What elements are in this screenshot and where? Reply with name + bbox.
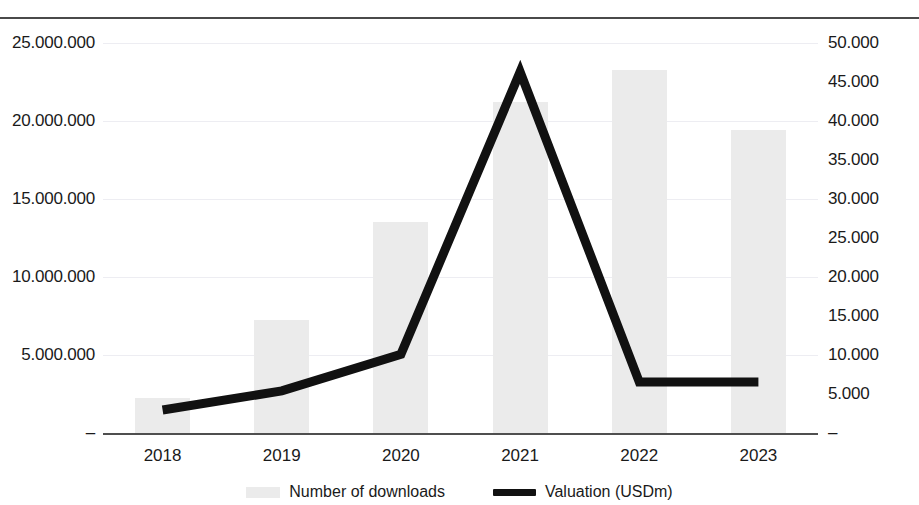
right-y-tick-label: 15.000	[828, 306, 879, 326]
valuation-polyline	[163, 72, 759, 410]
right-y-tick-label: 5.000	[828, 384, 870, 404]
top-divider	[0, 17, 919, 19]
right-y-tick-label: 40.000	[828, 111, 879, 131]
left-y-tick-label: 20.000.000	[12, 111, 95, 131]
x-tick-label-2021: 2021	[460, 446, 580, 466]
line-swatch-icon	[493, 489, 536, 496]
left-y-tick-label: 25.000.000	[12, 33, 95, 53]
left-y-tick-label: 15.000.000	[12, 189, 95, 209]
left-y-tick-label: –	[86, 423, 95, 443]
left-y-tick-label: 5.000.000	[21, 345, 95, 365]
right-y-tick-label: 50.000	[828, 33, 879, 53]
bar-swatch-icon	[246, 487, 280, 498]
right-y-tick-label: 20.000	[828, 267, 879, 287]
left-y-axis: –5.000.00010.000.00015.000.00020.000.000…	[0, 0, 95, 505]
x-tick-label-2019: 2019	[222, 446, 342, 466]
right-y-tick-label: 35.000	[828, 150, 879, 170]
right-y-tick-label: 10.000	[828, 345, 879, 365]
legend-item-valuation[interactable]: Valuation (USDm)	[493, 483, 673, 501]
x-tick-label-2023: 2023	[698, 446, 818, 466]
right-y-tick-label: 30.000	[828, 189, 879, 209]
line-series-valuation	[103, 43, 818, 433]
x-tick-label-2018: 2018	[103, 446, 223, 466]
right-y-tick-label: –	[828, 423, 837, 443]
plot-area	[103, 43, 818, 433]
chart-figure: –5.000.00010.000.00015.000.00020.000.000…	[0, 0, 919, 505]
x-axis-baseline	[103, 433, 818, 435]
left-y-tick-label: 10.000.000	[12, 267, 95, 287]
right-y-tick-label: 25.000	[828, 228, 879, 248]
legend-label-valuation: Valuation (USDm)	[545, 483, 673, 501]
right-y-axis: –5.00010.00015.00020.00025.00030.00035.0…	[828, 0, 919, 505]
x-tick-label-2020: 2020	[341, 446, 461, 466]
legend-item-number-of-downloads[interactable]: Number of downloads	[246, 483, 445, 501]
chart-legend: Number of downloads Valuation (USDm)	[0, 483, 919, 501]
legend-label-downloads: Number of downloads	[289, 483, 445, 501]
x-tick-label-2022: 2022	[579, 446, 699, 466]
right-y-tick-label: 45.000	[828, 72, 879, 92]
